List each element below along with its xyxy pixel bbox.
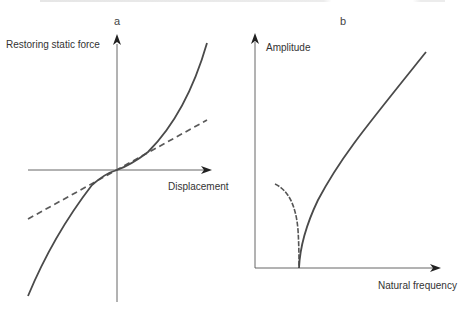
panel-a: a Restoring static force Displacement <box>6 15 229 302</box>
figure-canvas: a Restoring static force Displacement b … <box>0 0 465 309</box>
panel-a-label: a <box>114 15 121 27</box>
panel-b-y-axis-label: Amplitude <box>266 42 311 53</box>
panel-a-nonlinear-curve <box>28 43 207 296</box>
panel-b-x-axis-label: Natural frequency <box>378 280 457 291</box>
panel-a-y-arrow-icon <box>113 34 121 45</box>
panel-b-hardening-curve <box>299 52 426 268</box>
panel-b-softening-curve <box>275 184 299 268</box>
panel-b: b Amplitude Natural frequency <box>251 15 457 291</box>
panel-b-label: b <box>340 15 346 27</box>
panel-a-y-axis-label: Restoring static force <box>6 39 100 50</box>
panel-a-x-axis-label: Displacement <box>168 181 229 192</box>
